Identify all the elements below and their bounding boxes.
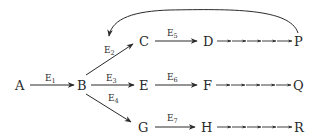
node-b: B [77,78,87,93]
edge-label-e4: E4 [108,93,119,105]
node-e: E [139,78,149,93]
pathway-diagram: A B C E G D F H P Q R E1 E2 E3 E4 E5 E6 … [0,0,319,137]
node-q: Q [293,78,304,93]
edge-label-e1: E1 [45,73,56,85]
node-f: F [203,78,212,93]
feedback-arrow-p-to-e2 [109,10,298,36]
node-g: G [138,120,148,135]
node-a: A [14,78,25,93]
node-r: R [294,120,305,135]
edge-label-e2: E2 [104,45,115,57]
node-d: D [203,34,213,49]
node-h: H [201,120,212,135]
node-c: C [139,34,149,49]
node-p: P [294,34,303,49]
edge-label-e3: E3 [106,73,117,85]
edge-label-e7: E7 [167,113,178,125]
edge-label-e6: E6 [167,72,178,84]
edge-label-e5: E5 [167,28,178,40]
